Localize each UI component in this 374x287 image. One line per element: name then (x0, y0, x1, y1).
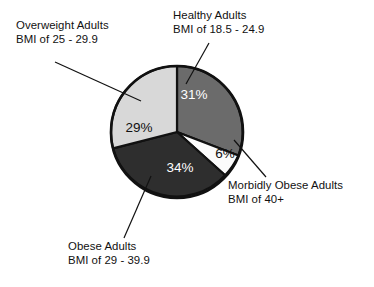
callout-overweight: Overweight Adults BMI of 25 - 29.9 (16, 19, 109, 46)
callout-morbidly-obese-criteria: BMI of 40+ (228, 193, 343, 207)
slice-label-overweight: 29% (125, 120, 152, 135)
callout-healthy: Healthy Adults BMI of 18.5 - 24.9 (173, 9, 264, 36)
callout-morbidly-obese-title: Morbidly Obese Adults (228, 179, 343, 191)
callout-overweight-criteria: BMI of 25 - 29.9 (16, 33, 109, 47)
callout-obese-criteria: BMI of 29 - 39.9 (68, 254, 150, 268)
callout-overweight-title: Overweight Adults (16, 19, 109, 31)
slice-label-obese: 34% (166, 160, 193, 175)
callout-morbidly-obese: Morbidly Obese Adults BMI of 40+ (228, 179, 343, 206)
pie-chart: 31% 6% 34% 29% Overweight Adults BMI of … (0, 0, 374, 287)
callout-obese: Obese Adults BMI of 29 - 39.9 (68, 240, 150, 267)
callout-healthy-title: Healthy Adults (173, 9, 247, 21)
slice-label-healthy: 31% (180, 87, 207, 102)
callout-healthy-criteria: BMI of 18.5 - 24.9 (173, 23, 264, 37)
leader-line-overweight (55, 62, 141, 101)
slice-label-morbidly-obese: 6% (215, 146, 235, 161)
callout-obese-title: Obese Adults (68, 240, 136, 252)
